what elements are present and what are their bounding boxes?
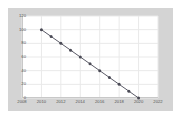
y-axis-tick-label: 120 bbox=[19, 14, 26, 18]
x-axis-tick-label: 2014 bbox=[76, 99, 85, 104]
y-axis-tick-label: 60 bbox=[21, 55, 26, 59]
chart-figure-frame: 020406080100120 200820102012201420162018… bbox=[8, 8, 173, 111]
plot-area bbox=[22, 16, 158, 98]
data-point-marker bbox=[79, 56, 82, 59]
x-axis-tick-labels: 20082010201220142016201820202022 bbox=[22, 99, 158, 109]
data-point-marker bbox=[127, 90, 130, 93]
x-axis-tick-label: 2012 bbox=[56, 99, 65, 104]
x-axis-tick-label: 2016 bbox=[95, 99, 104, 104]
data-point-marker bbox=[98, 69, 101, 72]
data-point-marker bbox=[69, 49, 72, 52]
data-point-marker bbox=[108, 76, 111, 79]
x-axis-tick-label: 2008 bbox=[17, 99, 26, 104]
data-point-marker bbox=[40, 28, 43, 31]
x-axis-tick-label: 2010 bbox=[37, 99, 46, 104]
line-chart: 020406080100120 200820102012201420162018… bbox=[0, 0, 181, 119]
data-point-marker bbox=[50, 35, 53, 38]
y-axis-tick-label: 40 bbox=[21, 69, 26, 73]
x-axis-tick-label: 2020 bbox=[134, 99, 143, 104]
y-axis-tick-label: 100 bbox=[19, 28, 26, 32]
x-axis-tick-label: 2022 bbox=[153, 99, 162, 104]
y-axis-tick-labels: 020406080100120 bbox=[8, 16, 28, 98]
data-series-layer bbox=[22, 16, 158, 98]
data-point-marker bbox=[89, 62, 92, 65]
y-axis-tick-label: 20 bbox=[21, 82, 26, 86]
y-axis-tick-label: 80 bbox=[21, 41, 26, 45]
data-point-marker bbox=[59, 42, 62, 45]
x-axis-tick-label: 2018 bbox=[114, 99, 123, 104]
data-point-marker bbox=[118, 83, 121, 86]
